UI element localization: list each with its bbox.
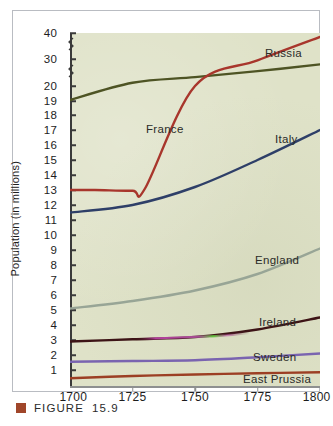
series-label-east-prussia: East Prussia [243,373,311,385]
y-tick-label: 6 [50,289,63,301]
y-tick-label: 16 [44,139,63,151]
series-label-ireland: Ireland [259,316,296,328]
y-tick-label: 20 [44,80,63,92]
y-tick-label: 13 [44,184,63,196]
y-tick-label: 30 [44,53,63,65]
x-tick-label: 1750 [181,390,209,404]
figure-caption: FIGURE 15.9 [16,402,119,414]
y-tick-label: 2 [50,349,63,361]
series-label-sweden: Sweden [253,351,296,363]
y-tick-label: 18 [44,109,63,121]
y-tick-label: 8 [50,259,63,271]
series-line-russia [70,64,320,100]
x-tick-label: 1800 [303,390,331,404]
x-tick-label: 1725 [119,390,147,404]
y-tick-label: 17 [44,124,63,136]
figure-15-9: Population (in millions) 403020191817161… [0,0,333,426]
y-tick-label: 1 [50,364,63,376]
series-label-france: France [146,123,184,135]
y-tick-label: 3 [50,334,63,346]
y-tick-label: 4 [50,319,63,331]
y-tick-label: 9 [50,244,63,256]
y-tick-label: 12 [44,199,63,211]
y-tick-label: 14 [44,169,63,181]
series-line-france [70,37,320,197]
y-tick-label: 15 [44,154,63,166]
y-tick-label: 19 [44,95,63,107]
caption-number: 15.9 [92,402,119,414]
y-tick-label: 5 [50,304,63,316]
caption-label: FIGURE [34,402,84,414]
y-tick-label: 11 [45,214,63,226]
y-axis-title: Population (in millions) [9,161,21,276]
series-label-russia: Russia [265,47,302,59]
x-tick-label: 1775 [244,390,272,404]
caption-swatch-icon [16,403,26,413]
chart-frame: Population (in millions) 403020191817161… [12,10,320,392]
y-tick-label: 7 [50,274,63,286]
series-label-italy: Italy [275,133,298,145]
y-tick-label: 10 [44,229,63,241]
series-label-england: England [255,254,299,266]
y-tick-label: 40 [44,27,63,39]
series-curve-layer [70,33,320,387]
